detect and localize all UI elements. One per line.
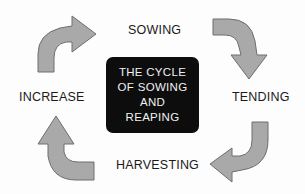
stage-label-sowing: SOWING (128, 23, 181, 37)
center-title-line-1: THE CYCLE (119, 65, 186, 80)
center-title-box: THE CYCLE OF SOWING AND REAPING (106, 57, 199, 133)
curved-arrow-down-left-icon (208, 120, 272, 184)
curved-arrow-right-down-icon (211, 17, 271, 81)
stage-label-tending: TENDING (232, 90, 290, 104)
stage-label-harvesting: HARVESTING (116, 158, 199, 172)
cycle-diagram: SOWING TENDING HARVESTING INCREASE THE C… (0, 0, 305, 194)
curved-arrow-left-up-icon (36, 114, 96, 182)
curved-arrow-up-right-icon (36, 14, 98, 76)
stage-label-increase: INCREASE (19, 90, 85, 104)
center-title-line-4: REAPING (126, 110, 180, 125)
center-title-line-2: OF SOWING (118, 80, 188, 95)
center-title-line-3: AND (140, 95, 165, 110)
